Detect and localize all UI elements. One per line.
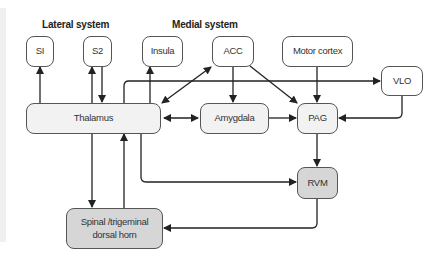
node-rvm: RVM xyxy=(297,167,338,199)
node-insula: Insula xyxy=(142,36,183,67)
node-vlo: VLO xyxy=(381,66,423,96)
node-thalamus-label: Thalamus xyxy=(74,112,113,125)
node-spinal-dorsal-horn: Spinal /trigeminal dorsal horn xyxy=(66,208,163,249)
node-si: SI xyxy=(26,36,54,67)
edge-thalamus-acc xyxy=(162,67,211,103)
node-acc-label: ACC xyxy=(223,45,242,58)
node-thalamus: Thalamus xyxy=(26,103,161,134)
node-pag-label: PAG xyxy=(308,112,326,125)
node-motor-cortex-label: Motor cortex xyxy=(293,45,342,58)
edge-vlo-pag xyxy=(339,95,402,118)
node-motor-cortex: Motor cortex xyxy=(282,36,353,67)
node-acc: ACC xyxy=(212,36,254,67)
heading-medial-system: Medial system xyxy=(172,19,238,30)
node-pag: PAG xyxy=(297,103,338,134)
edge-acc-pag xyxy=(250,66,297,103)
node-vlo-label: VLO xyxy=(393,75,411,88)
edge-rvm-spinal xyxy=(164,198,317,228)
node-spinal-label-line1: Spinal /trigeminal xyxy=(81,216,148,229)
edge-thalamus-vlo xyxy=(124,81,380,103)
node-rvm-label: RVM xyxy=(307,177,327,190)
node-amygdala-label: Amygdala xyxy=(215,112,255,125)
node-insula-label: Insula xyxy=(151,45,175,58)
node-amygdala: Amygdala xyxy=(200,103,269,134)
node-si-label: SI xyxy=(36,45,44,58)
node-spinal-label-line2: dorsal horn xyxy=(92,229,136,242)
edge-thalamus-rvm xyxy=(141,133,296,182)
node-s2-label: S2 xyxy=(92,45,103,58)
node-s2: S2 xyxy=(83,36,112,67)
heading-lateral-system: Lateral system xyxy=(42,19,109,30)
